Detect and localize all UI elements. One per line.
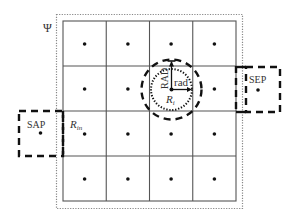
psi-label: Ψ	[43, 21, 52, 35]
sap-box	[19, 111, 63, 156]
rad-label: rad	[174, 76, 189, 88]
cell-grid	[63, 21, 236, 201]
grid-diagram: Ψ rad RAD Ri SEP S	[0, 0, 297, 220]
sep-label: SEP	[249, 74, 267, 85]
ri-label: Ri	[165, 93, 175, 107]
RAD-label: RAD	[159, 68, 170, 89]
r-in-label: Rin	[69, 118, 83, 132]
RAD-arrow-head	[169, 61, 174, 67]
sap-label: SAP	[27, 119, 46, 130]
